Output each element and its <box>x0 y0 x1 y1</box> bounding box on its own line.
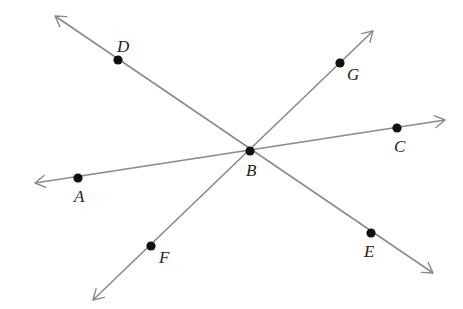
point-a <box>73 173 82 182</box>
point-label-g: G <box>347 65 359 84</box>
point-label-e: E <box>363 242 375 261</box>
point-label-a: A <box>73 187 85 206</box>
point-label-d: D <box>116 37 130 56</box>
line-segment <box>35 120 445 183</box>
line-de <box>55 16 433 273</box>
point-label-c: C <box>394 137 406 156</box>
point-g <box>335 58 344 67</box>
line-ac <box>35 116 445 188</box>
point-e <box>366 228 375 237</box>
geometry-diagram: ABCDEFG <box>0 0 463 309</box>
point-label-b: B <box>246 161 257 180</box>
line-segment <box>55 16 433 273</box>
lines-layer <box>35 16 445 300</box>
point-b <box>245 146 254 155</box>
point-d <box>113 55 122 64</box>
point-f <box>146 241 155 250</box>
point-c <box>392 123 401 132</box>
point-label-f: F <box>158 248 170 267</box>
points-layer <box>73 55 401 250</box>
